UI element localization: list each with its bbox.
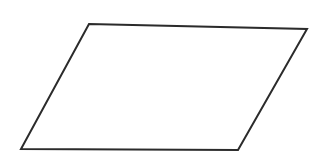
parallelogram-shape bbox=[21, 24, 307, 150]
parallelogram-diagram bbox=[0, 0, 322, 163]
figure-canvas bbox=[0, 0, 322, 163]
